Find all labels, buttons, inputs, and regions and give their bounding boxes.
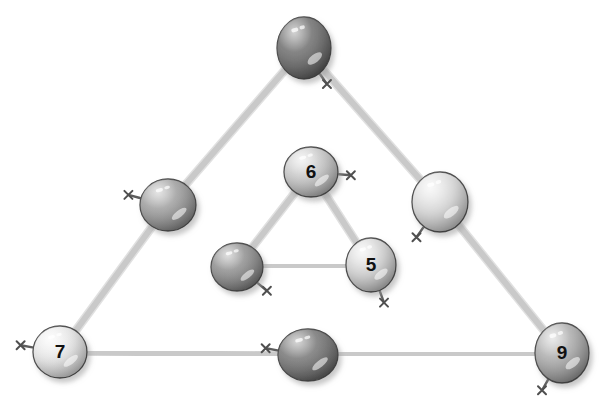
balloon-6[interactable]: 6 [284,147,355,197]
balloon-9[interactable]: 9 [535,323,589,394]
balloon-5[interactable]: 5 [346,238,396,307]
string-edges-layer [60,48,562,355]
balloon-number-label: 5 [366,254,377,275]
balloon-number-label: 6 [306,161,317,182]
balloon-blank[interactable] [277,17,331,88]
balloon-tie [323,80,331,88]
balloon-tie [263,287,271,295]
balloon-blank[interactable] [124,179,196,231]
balloon-blank[interactable] [211,243,271,295]
balloons-layer: 7965 [17,17,589,394]
string-line [60,205,168,352]
string-line [168,48,304,205]
string-line [308,353,562,355]
balloon-tie [538,386,546,394]
balloon-puzzle-canvas: 7965 [0,0,604,407]
balloon-7[interactable]: 7 [17,326,87,378]
string-line [60,352,308,355]
balloon-number-label: 7 [55,341,66,362]
balloon-number-label: 9 [557,342,568,363]
puzzle-diagram: 7965 [0,0,604,407]
balloon-tie [412,233,420,241]
